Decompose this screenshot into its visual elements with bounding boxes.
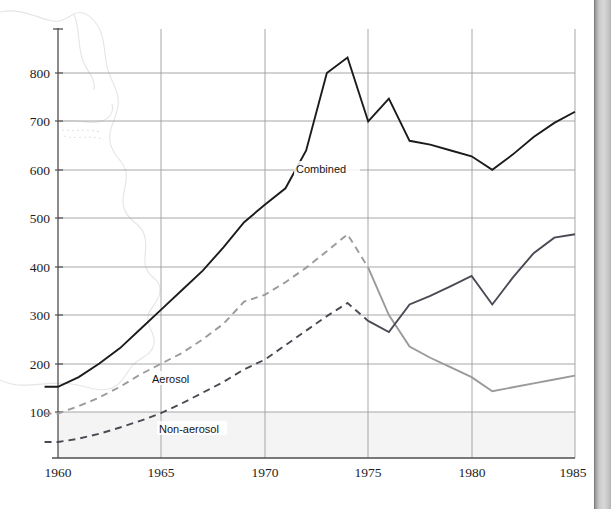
y-tick-label: 600 [30,163,51,178]
x-tick-label: 1980 [459,465,486,480]
nonaerosol-series-label: Non-aerosol [159,423,219,435]
y-tick-marks [55,73,63,412]
x-tick-label: 1975 [355,465,382,480]
series-line [45,234,369,413]
horizontal-gridlines [58,73,575,412]
y-tick-label: 200 [30,357,51,372]
y-tick-label: 800 [30,66,51,81]
combined-series-label: Combined [296,163,346,175]
aerosol-series-label: Aerosol [152,373,189,385]
y-tick-label: 400 [30,260,51,275]
vertical-gridlines [161,29,575,458]
x-tick-label: 1965 [148,465,175,480]
chart-svg: 800 700 600 500 400 300 200 100 1960 196… [0,0,595,509]
y-tick-label: 700 [30,114,51,129]
series-line [45,58,575,387]
data-series-layer [45,58,575,443]
scanned-page-edge [593,0,611,509]
x-tick-label: 1970 [252,465,279,480]
x-tick-label: 1985 [560,465,587,480]
chart-page: 800 700 600 500 400 300 200 100 1960 196… [0,0,611,509]
x-axis-tick-labels: 1960 1965 1970 1975 1980 1985 [45,465,587,480]
y-tick-label: 300 [30,308,51,323]
line-chart: 800 700 600 500 400 300 200 100 1960 196… [0,0,595,509]
x-tick-label: 1960 [45,465,72,480]
y-axis-tick-labels: 800 700 600 500 400 300 200 100 [30,66,51,420]
axis-spines [52,28,575,458]
plot-background [58,412,575,458]
y-tick-label: 500 [30,211,51,226]
